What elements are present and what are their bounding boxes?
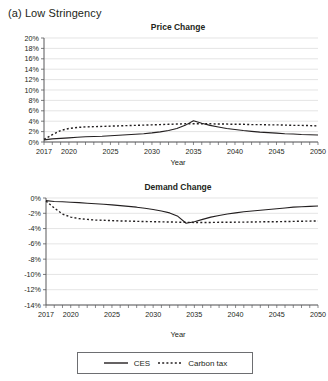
legend-item-carbon-tax: Carbon tax — [157, 359, 227, 368]
svg-text:2040: 2040 — [227, 147, 243, 156]
svg-text:4%: 4% — [29, 117, 40, 126]
price-change-plot: 0%2%4%6%8%10%12%14%16%18%20%201720202025… — [0, 32, 328, 162]
svg-text:-2%: -2% — [28, 209, 41, 218]
svg-text:2040: 2040 — [228, 310, 244, 317]
svg-text:18%: 18% — [25, 44, 40, 53]
svg-text:14%: 14% — [25, 65, 40, 74]
svg-text:2045: 2045 — [269, 310, 285, 317]
svg-text:-14%: -14% — [24, 301, 41, 310]
svg-text:8%: 8% — [29, 96, 40, 105]
figure: (a) Low Stringency Price Change 0%2%4%6%… — [0, 0, 328, 381]
svg-text:16%: 16% — [25, 54, 40, 63]
price-change-chart: 0%2%4%6%8%10%12%14%16%18%20%201720202025… — [0, 32, 328, 162]
svg-text:2050: 2050 — [310, 310, 326, 317]
svg-text:-8%: -8% — [28, 255, 41, 264]
demand-change-title: Demand Change — [14, 182, 328, 192]
svg-text:2030: 2030 — [144, 147, 160, 156]
svg-text:2017: 2017 — [36, 147, 52, 156]
svg-text:2020: 2020 — [63, 310, 79, 317]
svg-text:0%: 0% — [29, 138, 40, 147]
svg-text:0%: 0% — [31, 194, 42, 203]
svg-text:10%: 10% — [25, 86, 40, 95]
legend-swatch-solid — [103, 359, 129, 367]
legend-label-carbon-tax: Carbon tax — [188, 359, 227, 368]
svg-text:2020: 2020 — [61, 147, 77, 156]
demand-change-xlabel: Year — [14, 330, 328, 339]
demand-change-plot: 0%-2%-4%-6%-8%-10%-12%-14%20172020202520… — [0, 192, 328, 317]
svg-text:2050: 2050 — [310, 147, 326, 156]
svg-text:2030: 2030 — [145, 310, 161, 317]
svg-text:2035: 2035 — [186, 310, 202, 317]
svg-text:2%: 2% — [29, 127, 40, 136]
legend-label-ces: CES — [134, 359, 150, 368]
price-change-xlabel: Year — [14, 158, 328, 167]
legend-item-ces: CES — [103, 359, 150, 368]
panel-label: (a) Low Stringency — [8, 7, 102, 19]
svg-text:20%: 20% — [25, 34, 40, 43]
svg-text:12%: 12% — [25, 75, 40, 84]
svg-text:-4%: -4% — [28, 224, 41, 233]
svg-text:2045: 2045 — [268, 147, 284, 156]
demand-change-chart: 0%-2%-4%-6%-8%-10%-12%-14%20172020202520… — [0, 192, 328, 317]
price-change-title: Price Change — [14, 22, 328, 32]
svg-text:-10%: -10% — [24, 270, 41, 279]
svg-text:-6%: -6% — [28, 239, 41, 248]
svg-text:2025: 2025 — [102, 147, 118, 156]
svg-text:-12%: -12% — [24, 285, 41, 294]
legend: CES Carbon tax — [77, 352, 253, 374]
svg-text:6%: 6% — [29, 106, 40, 115]
svg-text:2025: 2025 — [104, 310, 120, 317]
legend-swatch-dotted — [157, 359, 183, 367]
svg-text:2017: 2017 — [38, 310, 54, 317]
svg-text:2035: 2035 — [185, 147, 201, 156]
